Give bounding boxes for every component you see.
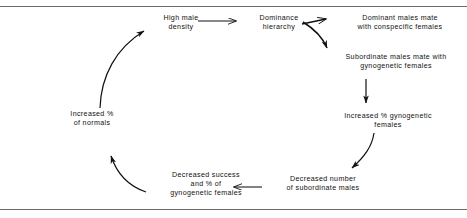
node-line: Decreased number bbox=[265, 175, 381, 184]
node-line: Dominance bbox=[243, 14, 315, 23]
node-line: Increased % bbox=[52, 110, 132, 119]
node-subordinate-males-mate: Subordinate males mate with gynogenetic … bbox=[325, 53, 467, 71]
node-increased-normals: Increased % of normals bbox=[52, 110, 132, 128]
node-line: with conspecific females bbox=[333, 23, 467, 32]
node-dominance-hierarchy: Dominance hierarchy bbox=[243, 14, 315, 32]
node-dominant-males-mate: Dominant males mate with conspecific fem… bbox=[333, 14, 467, 32]
node-line: females bbox=[326, 121, 450, 130]
node-line: hierarchy bbox=[243, 23, 315, 32]
node-line: Decreased success bbox=[149, 171, 263, 180]
node-decreased-number-subordinate-males: Decreased number of subordinate males bbox=[265, 175, 381, 193]
node-line: Subordinate males mate with bbox=[325, 53, 467, 62]
node-increased-gynogenetic-females: Increased % gynogenetic females bbox=[326, 112, 450, 130]
node-high-male-density: High male density bbox=[145, 14, 217, 32]
node-line: gynogenetic females bbox=[149, 189, 263, 198]
node-line: of normals bbox=[52, 119, 132, 128]
arrow-increased-gyno-to-decreased-number bbox=[352, 133, 374, 168]
node-line: gynogenetic females bbox=[325, 62, 467, 71]
node-decreased-success-gynogenetic-females: Decreased success and % of gynogenetic f… bbox=[149, 171, 263, 199]
node-line: and % of bbox=[149, 180, 263, 189]
node-line: Increased % gynogenetic bbox=[326, 112, 450, 121]
node-line: Dominant males mate bbox=[333, 14, 467, 23]
node-line: density bbox=[145, 23, 217, 32]
arrow-decreased-success-to-increased-normals bbox=[111, 156, 146, 192]
cycle-diagram-figure: High male density Dominance hierarchy Do… bbox=[0, 0, 467, 218]
node-line: of subordinate males bbox=[265, 184, 381, 193]
node-line: High male bbox=[145, 14, 217, 23]
arrow-increased-normals-to-high-male-density bbox=[100, 31, 144, 108]
